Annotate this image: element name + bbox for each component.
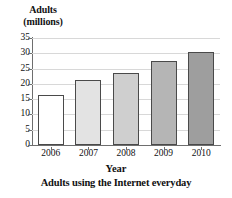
bar-series <box>32 38 220 145</box>
y-tick-label: 0 <box>6 140 30 150</box>
bar-chart-figure: Adults (millions) 05101520253035 2006200… <box>0 0 232 198</box>
chart-caption: Adults using the Internet everyday <box>0 177 232 189</box>
bar-2008 <box>113 73 139 145</box>
bar-2006 <box>38 95 64 145</box>
x-tick-mark <box>51 147 52 150</box>
bar-2010 <box>188 52 214 145</box>
x-axis-labels: 20062007200820092010 <box>32 147 221 161</box>
x-axis-line <box>32 145 221 146</box>
y-tick-label: 15 <box>6 94 30 104</box>
y-tick-label: 35 <box>6 33 30 43</box>
x-axis-title: Year <box>0 163 232 175</box>
y-tick-label: 30 <box>6 48 30 58</box>
y-tick-label: 10 <box>6 109 30 119</box>
x-tick-mark <box>126 147 127 150</box>
y-tick-label: 5 <box>6 125 30 135</box>
plot-area <box>32 38 220 145</box>
x-tick-mark <box>164 147 165 150</box>
x-tick-mark <box>88 147 89 150</box>
x-tick-mark <box>201 147 202 150</box>
y-tick-label: 25 <box>6 64 30 74</box>
bar-2007 <box>75 80 101 145</box>
y-tick-label: 20 <box>6 79 30 89</box>
bar-2009 <box>151 61 177 145</box>
